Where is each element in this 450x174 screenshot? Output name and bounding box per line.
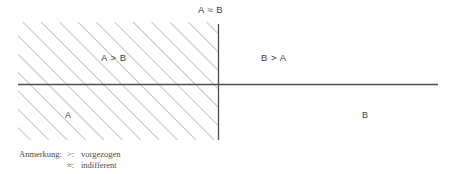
figure-page: A ≈ B A > B B > A A B Anmerkung: >: vorg… bbox=[0, 0, 450, 174]
label-b-greater-a: B > A bbox=[261, 52, 286, 63]
figure-note: Anmerkung: >: vorgezogen ≈: indifferent bbox=[19, 149, 121, 170]
label-a-equiv-b: A ≈ B bbox=[198, 4, 223, 15]
preference-diagram: A ≈ B A > B B > A A B bbox=[0, 0, 450, 148]
diagram-canvas bbox=[0, 0, 450, 148]
hatch-fill bbox=[18, 22, 218, 140]
hatched-region-a-greater-b bbox=[18, 22, 218, 140]
note-line-1: Anmerkung: >: vorgezogen bbox=[19, 149, 121, 160]
note-meaning-indifferent: indifferent bbox=[81, 160, 117, 171]
label-axis-a: A bbox=[65, 110, 72, 120]
note-symbol-indifferent: ≈: bbox=[67, 160, 81, 171]
label-axis-b: B bbox=[362, 110, 369, 120]
note-meaning-preferred: vorgezogen bbox=[81, 149, 121, 160]
note-heading: Anmerkung: bbox=[19, 149, 67, 160]
note-line-2: ≈: indifferent bbox=[19, 160, 121, 171]
note-symbol-preferred: >: bbox=[67, 149, 81, 160]
label-a-greater-b: A > B bbox=[101, 52, 126, 63]
